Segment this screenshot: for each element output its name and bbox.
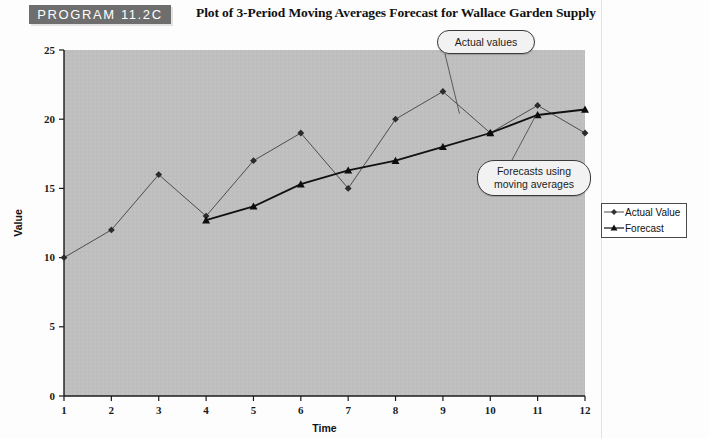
y-axis-tick-label: 5 (50, 320, 56, 332)
page-canvas: PROGRAM 11.2C Plot of 3-Period Moving Av… (0, 0, 709, 438)
y-axis-tick-label: 15 (44, 182, 56, 194)
y-axis-tick-label: 25 (44, 44, 56, 56)
program-badge: PROGRAM 11.2C (29, 5, 171, 24)
x-axis-tick-label: 6 (298, 404, 304, 416)
x-axis-tick-label: 8 (393, 404, 399, 416)
x-axis-tick-label: 2 (109, 404, 115, 416)
moving-average-line-chart: 0510152025123456789101112TimeValue (0, 28, 601, 438)
legend-label-forecast: Forecast (625, 223, 664, 234)
x-axis-tick-label: 9 (440, 404, 446, 416)
x-axis-tick-label: 4 (203, 404, 209, 416)
legend-item-forecast: Forecast (602, 220, 686, 236)
callout-actual-values: Actual values (437, 30, 535, 54)
x-axis-tick-label: 1 (61, 404, 67, 416)
x-axis-tick-label: 7 (345, 404, 351, 416)
chart-legend: Actual Value Forecast (601, 203, 687, 238)
y-axis-tick-label: 20 (44, 113, 56, 125)
legend-item-actual-value: Actual Value (602, 204, 686, 220)
y-axis-title: Value (12, 209, 24, 237)
x-axis-tick-label: 5 (251, 404, 257, 416)
legend-key-triangle-icon (603, 221, 625, 235)
x-axis-tick-label: 11 (532, 404, 542, 416)
x-axis-title: Time (312, 422, 336, 434)
y-axis-tick-label: 10 (44, 251, 56, 263)
y-axis-tick-label: 0 (50, 390, 56, 402)
callout-forecasts-moving-averages: Forecasts using moving averages (477, 160, 591, 196)
x-axis-tick-label: 10 (485, 404, 497, 416)
legend-key-diamond-icon (603, 205, 625, 219)
chart-container: 0510152025123456789101112TimeValue (0, 28, 601, 438)
x-axis-tick-label: 3 (156, 404, 162, 416)
page-title: Plot of 3-Period Moving Averages Forecas… (196, 5, 596, 21)
x-axis-tick-label: 12 (580, 404, 592, 416)
legend-label-actual-value: Actual Value (625, 207, 680, 218)
